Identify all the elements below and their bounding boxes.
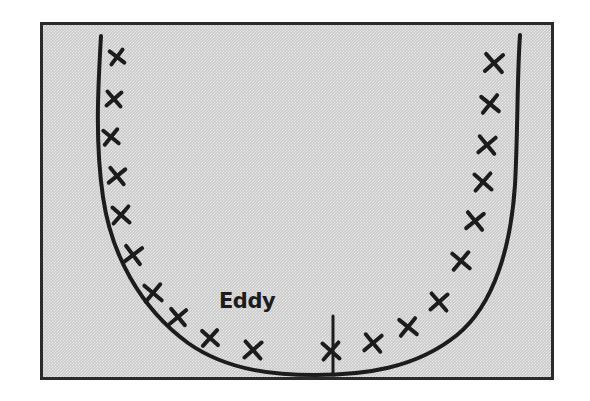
cross-mark xyxy=(481,95,499,113)
cross-mark xyxy=(399,318,417,336)
cross-mark xyxy=(485,54,503,72)
cross-mark xyxy=(478,136,495,153)
cross-mark xyxy=(430,293,447,310)
cross-mark xyxy=(244,341,261,358)
channel-curve-group xyxy=(98,35,520,375)
eddy-label: Eddy xyxy=(219,289,276,313)
sketch-canvas: Eddy xyxy=(43,25,551,377)
cross-mark xyxy=(474,173,491,190)
cross-mark xyxy=(170,309,186,325)
cross-mark xyxy=(107,92,122,107)
cross-mark xyxy=(202,330,218,346)
cross-mark xyxy=(124,246,142,264)
cross-mark xyxy=(112,206,129,223)
cross-mark xyxy=(109,168,125,184)
cross-mark xyxy=(110,50,125,65)
figure-root: Eddy xyxy=(0,0,590,401)
cross-mark xyxy=(144,284,161,301)
sketch-panel: Eddy xyxy=(40,22,554,380)
eddy-annotation-group: Eddy xyxy=(219,289,333,375)
cross-mark xyxy=(364,334,381,351)
flow-marker-crosses xyxy=(103,50,503,360)
cross-mark xyxy=(103,129,118,144)
cross-mark xyxy=(452,252,469,269)
cross-mark xyxy=(322,342,339,359)
u-shaped-channel-profile xyxy=(98,35,520,375)
cross-mark xyxy=(466,212,484,230)
